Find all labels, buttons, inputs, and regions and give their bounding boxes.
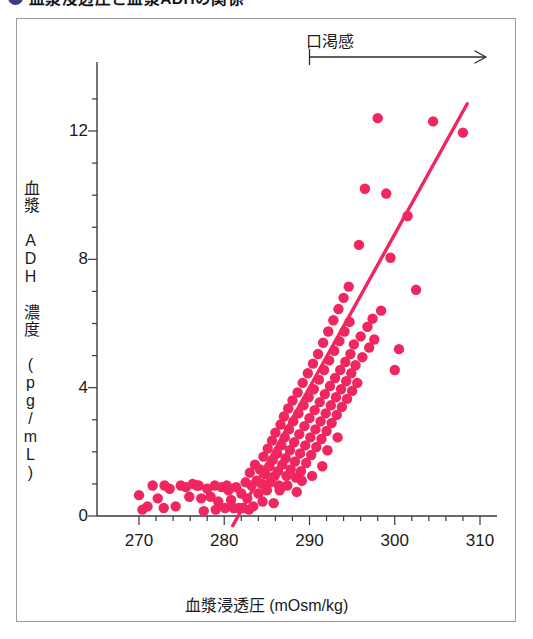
x-axis-title: 血漿浸透圧 (mOsm/kg) [0, 592, 533, 616]
x-tick-label: 300 [381, 531, 409, 551]
x-tick-label: 280 [210, 531, 238, 551]
y-tick-label: 12 [52, 121, 88, 141]
y-tick-label: 4 [52, 378, 88, 398]
figure-root: 血漿浸透圧と血漿ADHの関係 口渇感 血漿 ADH 濃度 (pg/mL) 血漿浸… [0, 0, 533, 639]
y-tick-label: 8 [52, 249, 88, 269]
figure-title-row: 血漿浸透圧と血漿ADHの関係 [8, 0, 244, 8]
thirst-annotation-label: 口渇感 [306, 28, 354, 52]
x-tick-label: 270 [125, 531, 153, 551]
x-tick-label: 290 [295, 531, 323, 551]
figure-title-strip: 血漿浸透圧と血漿ADHの関係 [0, 0, 533, 10]
figure-title: 血漿浸透圧と血漿ADHの関係 [29, 0, 244, 8]
y-tick-label: 0 [52, 506, 88, 526]
bullet-marker-icon [8, 0, 23, 5]
x-tick-label: 310 [466, 531, 494, 551]
y-axis-title: 血漿 ADH 濃度 (pg/mL) [14, 180, 42, 482]
figure-frame [16, 18, 516, 622]
